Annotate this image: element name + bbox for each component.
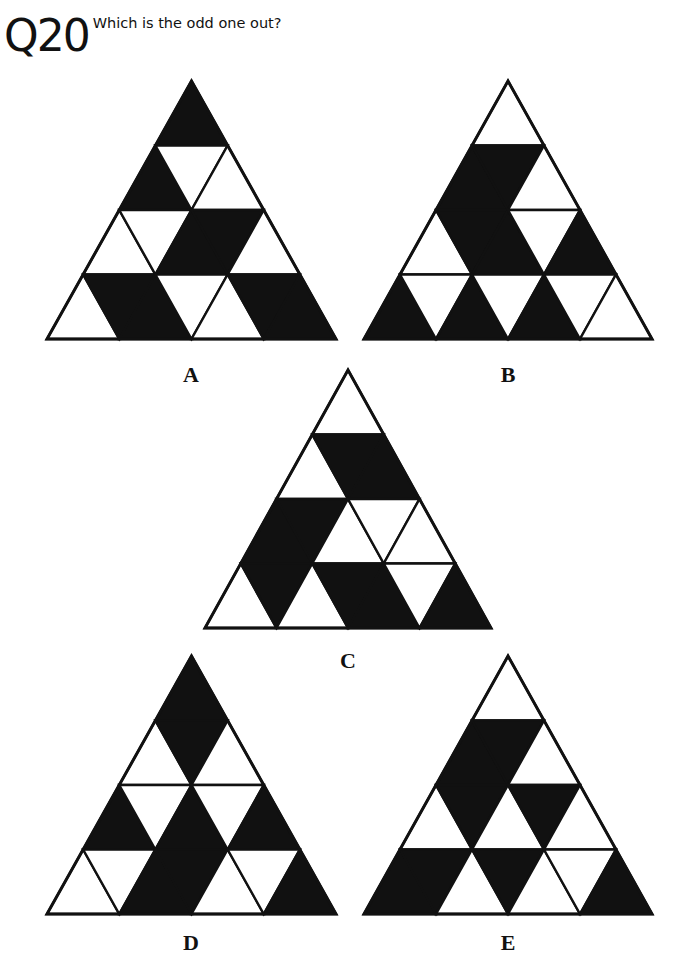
option-label-e[interactable]: E <box>501 932 516 954</box>
shaded-triangle-cell <box>155 656 227 721</box>
shaded-triangle-cell <box>155 81 227 146</box>
option-label-d[interactable]: D <box>183 932 199 954</box>
option-b[interactable] <box>364 81 652 339</box>
option-d[interactable] <box>47 656 336 914</box>
triangle-grid <box>47 656 336 914</box>
blank-triangle-cell <box>472 656 544 721</box>
question-number: Q20 <box>4 14 89 58</box>
triangle-grid <box>364 81 652 339</box>
triangle-grid <box>47 81 336 339</box>
option-label-b[interactable]: B <box>501 364 516 386</box>
blank-triangle-cell <box>472 81 544 146</box>
triangle-grid <box>205 370 491 628</box>
triangle-grid <box>364 656 652 914</box>
option-c[interactable] <box>205 370 491 628</box>
question-header: Q20 Which is the odd one out? <box>4 14 281 58</box>
blank-triangle-cell <box>312 370 384 435</box>
option-label-c[interactable]: C <box>340 650 356 672</box>
question-text: Which is the odd one out? <box>93 15 282 31</box>
option-e[interactable] <box>364 656 652 914</box>
option-label-a[interactable]: A <box>183 364 199 386</box>
option-a[interactable] <box>47 81 336 339</box>
